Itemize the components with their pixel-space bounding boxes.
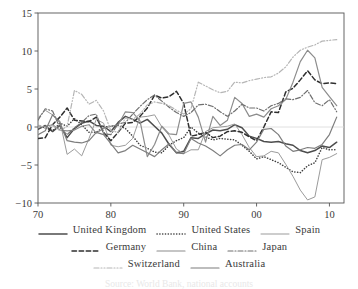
chart-legend: United KingdomUnited StatesSpain Germany… bbox=[0, 221, 358, 272]
legend-line-sample-icon bbox=[156, 225, 186, 235]
y-tick-label: 0 bbox=[27, 122, 32, 133]
y-tick-label: 5 bbox=[27, 84, 32, 95]
legend-line-sample-icon bbox=[260, 225, 290, 235]
series-line bbox=[38, 110, 337, 200]
series-group bbox=[38, 40, 337, 200]
legend-line-sample-icon bbox=[227, 242, 257, 252]
legend-label: Spain bbox=[295, 224, 320, 235]
series-line bbox=[38, 50, 337, 156]
legend-label: Germany bbox=[106, 241, 146, 252]
x-tick-label: 80 bbox=[106, 209, 117, 220]
legend-line-sample-icon bbox=[93, 259, 123, 269]
x-tick-label: 90 bbox=[178, 209, 189, 220]
y-tick-label: −5 bbox=[21, 160, 32, 171]
legend-line-sample-icon bbox=[71, 242, 101, 252]
y-tick-label: 15 bbox=[22, 8, 33, 19]
legend-row-3: SwitzerlandAustralia bbox=[0, 255, 358, 272]
legend-line-sample-icon bbox=[156, 242, 186, 252]
legend-line-sample-icon bbox=[38, 225, 68, 235]
legend-row-2: GermanyChinaJapan bbox=[0, 238, 358, 255]
legend-entry[interactable]: Switzerland bbox=[93, 258, 180, 269]
series-line bbox=[38, 91, 337, 135]
legend-entry[interactable]: Spain bbox=[260, 224, 320, 235]
legend-label: Australia bbox=[225, 258, 265, 269]
y-tick-label: −10 bbox=[16, 198, 32, 209]
legend-line-sample-icon bbox=[190, 259, 220, 269]
chart-footnote: Source: World Bank, national accounts bbox=[0, 279, 358, 289]
x-tick-label: 70 bbox=[33, 209, 44, 220]
series-line bbox=[38, 71, 337, 141]
legend-label: China bbox=[191, 241, 217, 252]
legend-entry[interactable]: China bbox=[156, 241, 217, 252]
legend-entry[interactable]: United States bbox=[156, 224, 250, 235]
chart-figure: −10−50510157080900010 United KingdomUnit… bbox=[0, 0, 358, 289]
legend-entry[interactable]: Germany bbox=[71, 241, 146, 252]
legend-label: Switzerland bbox=[128, 258, 180, 269]
legend-entry[interactable]: Japan bbox=[227, 241, 287, 252]
legend-label: United Kingdom bbox=[73, 224, 147, 235]
legend-label: Japan bbox=[262, 241, 287, 252]
legend-label: United States bbox=[191, 224, 250, 235]
x-tick-label: 10 bbox=[324, 209, 335, 220]
legend-entry[interactable]: United Kingdom bbox=[38, 224, 147, 235]
legend-row-1: United KingdomUnited StatesSpain bbox=[0, 221, 358, 238]
legend-entry[interactable]: Australia bbox=[190, 258, 265, 269]
y-tick-label: 10 bbox=[22, 46, 33, 57]
x-tick-label: 00 bbox=[251, 209, 262, 220]
